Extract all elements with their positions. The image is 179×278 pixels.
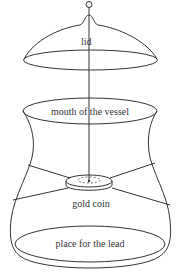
vessel-diagram: lid mouth of the vessel gold coin place … bbox=[0, 0, 179, 278]
label-lead-place: place for the lead bbox=[55, 238, 124, 249]
label-gold-coin: gold coin bbox=[72, 198, 110, 209]
support-line-upper-right bbox=[110, 163, 155, 178]
vessel-right-wall bbox=[148, 111, 170, 256]
coin-center-dot bbox=[88, 180, 90, 182]
support-line-lower-right bbox=[112, 188, 170, 205]
lid-rim bbox=[24, 50, 158, 70]
lid-knob bbox=[86, 2, 92, 8]
label-mouth: mouth of the vessel bbox=[51, 106, 129, 117]
support-line-lower-left bbox=[13, 188, 68, 200]
vessel-left-wall bbox=[10, 111, 33, 256]
support-line-upper-left bbox=[28, 165, 70, 178]
label-lid: lid bbox=[81, 36, 92, 47]
